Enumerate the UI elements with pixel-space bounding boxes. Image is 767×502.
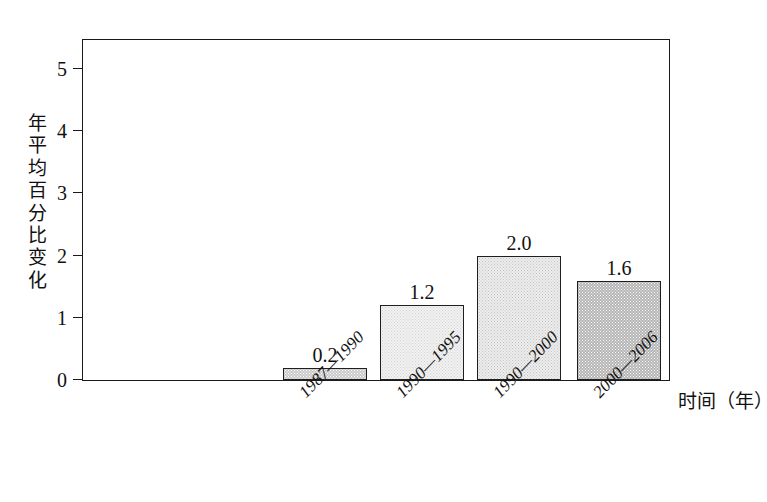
- x-axis-title: 时间（年）: [678, 392, 767, 411]
- y-tick-0: 0: [73, 379, 83, 380]
- bar-value-label: 1.6: [607, 258, 632, 278]
- bar-value-label: 2.0: [507, 233, 532, 253]
- y-tick-label: 2: [57, 245, 67, 265]
- y-tick-4: 4: [73, 130, 83, 131]
- y-tick-label: 4: [57, 121, 67, 141]
- y-tick-2: 2: [73, 255, 83, 256]
- plot-frame: 012345 0.21.22.01.6: [82, 39, 670, 381]
- y-tick-label: 3: [57, 183, 67, 203]
- y-tick-1: 1: [73, 317, 83, 318]
- y-axis-title: 年平均百分比变化: [22, 112, 52, 291]
- bar-chart-figure: 年平均百分比变化 012345 0.21.22.01.6 1987—199019…: [0, 0, 767, 502]
- bar-value-label: 1.2: [410, 282, 435, 302]
- y-tick-3: 3: [73, 192, 83, 193]
- y-tick-5: 5: [73, 68, 83, 69]
- y-tick-label: 5: [57, 59, 67, 79]
- y-tick-label: 0: [57, 370, 67, 390]
- y-tick-label: 1: [57, 307, 67, 327]
